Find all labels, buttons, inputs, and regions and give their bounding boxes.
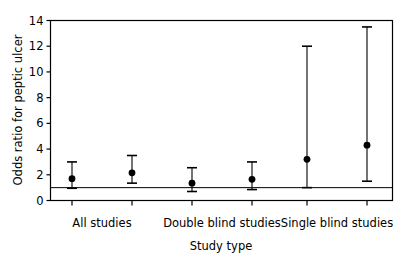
y-tick-label: 0 [36,194,43,208]
x-axis-title: Study type [190,239,253,253]
x-category-label: Double blind studies [163,216,281,230]
axes-border [51,21,393,201]
data-point-marker [249,176,256,183]
y-tick-label: 6 [36,116,43,130]
data-point-marker [304,156,311,163]
x-category-label: Single blind studies [281,216,393,230]
y-tick-label: 2 [36,168,43,182]
plot-frame [51,21,393,201]
data-point-marker [189,180,196,187]
chart-figure: 02468101214 All studiesDouble blind stud… [0,0,409,259]
data-point-group [67,162,77,188]
y-axis-title: Odds ratio for peptic ulcer [11,34,25,185]
data-series-group [67,27,372,192]
y-tick-label: 4 [36,142,43,156]
data-point-group [362,27,372,181]
data-point-group [247,162,257,190]
odds-ratio-plot: 02468101214 All studiesDouble blind stud… [0,0,409,259]
data-point-group [302,46,312,187]
data-point-marker [364,142,371,149]
data-point-marker [129,169,136,176]
y-tick-label: 14 [29,14,44,28]
y-tick-label: 8 [36,91,43,105]
data-point-marker [69,175,76,182]
y-tick-label: 12 [29,39,44,53]
y-tick-label: 10 [29,65,44,79]
y-axis: 02468101214 [29,14,51,208]
x-category-label: All studies [72,216,131,230]
data-point-group [127,156,137,184]
category-labels: All studiesDouble blind studiesSingle bl… [72,216,393,230]
x-axis [72,201,367,206]
